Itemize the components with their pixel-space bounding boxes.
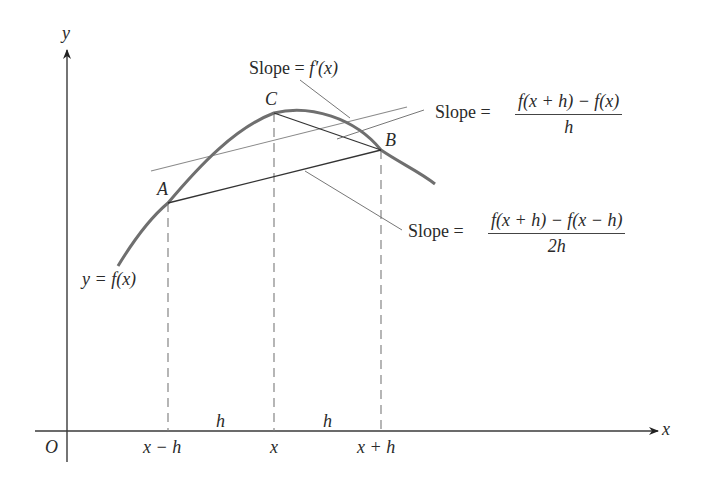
secant-CB bbox=[274, 113, 381, 150]
forward-numerator: f(x + h) − f(x) bbox=[515, 91, 622, 115]
forward-slope-prefix: Slope = bbox=[435, 103, 491, 121]
central-denominator: 2h bbox=[548, 234, 566, 257]
tick-x-minus-h: x − h bbox=[143, 438, 181, 456]
x-axis-label: x bbox=[662, 420, 670, 438]
interval-h-left: h bbox=[216, 412, 225, 430]
tangent-slope-label: Slope = f′(x) bbox=[249, 59, 338, 77]
tangent-slope-prefix: Slope = bbox=[249, 58, 309, 78]
interval-h-right: h bbox=[323, 412, 332, 430]
origin-label: O bbox=[45, 438, 58, 456]
central-numerator: f(x + h) − f(x − h) bbox=[488, 210, 625, 234]
pointer-central bbox=[305, 171, 402, 230]
forward-slope-fraction: f(x + h) − f(x) h bbox=[515, 91, 622, 137]
tick-x: x bbox=[270, 438, 278, 456]
central-slope-fraction: f(x + h) − f(x − h) 2h bbox=[488, 210, 625, 256]
tangent-slope-expr: f′(x) bbox=[309, 58, 338, 78]
curve-label: y = f(x) bbox=[82, 270, 136, 288]
central-slope-prefix: Slope = bbox=[408, 222, 464, 240]
y-axis-label: y bbox=[62, 24, 70, 42]
point-C-label: C bbox=[265, 90, 277, 108]
forward-denominator: h bbox=[564, 115, 573, 138]
point-B-label: B bbox=[385, 131, 396, 149]
tick-x-plus-h: x + h bbox=[357, 438, 395, 456]
point-A-label: A bbox=[157, 180, 168, 198]
